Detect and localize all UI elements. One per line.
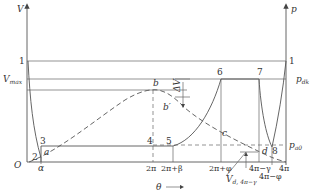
tick-2pi-beta: 2π+β: [161, 164, 183, 173]
pressure-curve-7-8: [259, 79, 272, 147]
v-axis-label: V: [17, 4, 25, 14]
delta-v-label: ΔV: [172, 78, 182, 93]
point-d: d: [262, 146, 268, 156]
tick-4pi: 4π: [279, 164, 289, 173]
vd-label: Vd, 4π−γ: [226, 174, 257, 186]
point-8: 8: [272, 146, 278, 156]
p-axis-label: p: [291, 4, 297, 14]
origin-label: O: [14, 160, 22, 170]
point-6: 6: [217, 67, 223, 77]
pa0-label: pa0: [289, 140, 302, 151]
pdk-label: pdk: [296, 74, 310, 85]
level-1-right-label: 1: [289, 56, 295, 66]
point-7: 7: [257, 67, 263, 77]
pressure-volume-diagram: V p O 1 1 Vmax pdk pa0 ΔV Vd, 4π−γ 2 3 a: [0, 0, 313, 196]
point-b-prime: b′: [163, 102, 171, 112]
level-1-left-label: 1: [19, 56, 25, 66]
tick-2pi-phi: 2π+φ: [209, 164, 232, 173]
point-3: 3: [40, 136, 46, 146]
point-2: 2: [32, 152, 38, 162]
pressure-curve-8-1: [272, 61, 286, 147]
vmax-label: Vmax: [3, 74, 23, 85]
point-4: 4: [147, 136, 153, 146]
point-b: b: [153, 78, 159, 88]
tick-2pi: 2π: [146, 164, 156, 173]
point-c: c: [222, 128, 227, 138]
tick-alpha: α: [38, 163, 44, 173]
point-a: a: [44, 147, 49, 157]
volume-curve: [29, 90, 286, 162]
point-5: 5: [166, 136, 172, 146]
tick-4pi-phi: 4π−φ: [259, 172, 282, 181]
theta-label: θ: [156, 182, 162, 192]
